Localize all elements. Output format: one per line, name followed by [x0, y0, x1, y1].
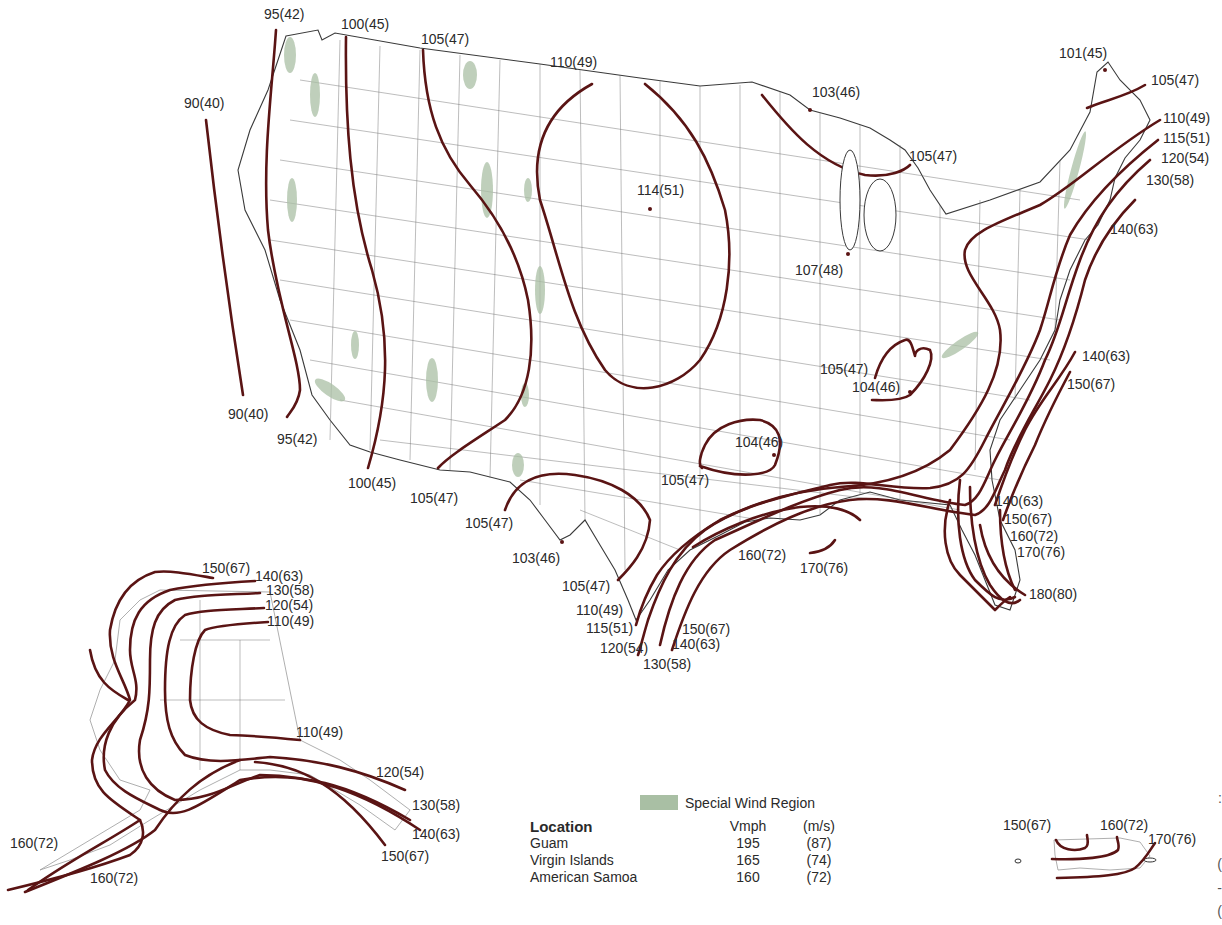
header-location: Location — [530, 818, 593, 835]
location-name: American Samoa — [530, 869, 637, 885]
contour-label: 107(48) — [795, 263, 843, 277]
contour-label: 110(49) — [296, 725, 343, 739]
contour-label: 104(46) — [852, 380, 900, 394]
contour-label: 160(72) — [738, 548, 786, 562]
contour-label: 170(76) — [800, 561, 848, 575]
contour-label: 150(67) — [381, 849, 429, 863]
contour-label: 140(63) — [255, 569, 303, 583]
contour-label: 170(76) — [1017, 545, 1065, 559]
contour-label: 95(42) — [264, 7, 304, 21]
ms-value: (72) — [798, 869, 840, 885]
location-name: Virgin Islands — [530, 852, 614, 868]
contour-label: 150(67) — [202, 561, 250, 575]
contour-label: 101(45) — [1059, 46, 1107, 60]
contour-label: 105(47) — [909, 149, 957, 163]
location-marker — [846, 252, 850, 256]
contour-label: 90(40) — [228, 407, 268, 421]
contour-label: 140(63) — [1110, 222, 1158, 236]
contour-label: 150(67) — [1003, 818, 1051, 832]
contour-label: 120(54) — [376, 765, 424, 779]
contour-label: 105(47) — [562, 579, 610, 593]
contour-label: 140(63) — [995, 494, 1043, 508]
contour-label: 114(51) — [637, 183, 684, 197]
contour-label: 120(54) — [600, 641, 648, 655]
contour-label: 105(47) — [410, 491, 458, 505]
location-marker — [1103, 68, 1107, 72]
contour-label: 95(42) — [277, 432, 317, 446]
contour-label: 130(58) — [643, 657, 691, 671]
contour-label: 110(49) — [550, 55, 597, 69]
contour-label: 120(54) — [1161, 151, 1209, 165]
wind-speed-map — [0, 0, 1222, 925]
edge-fragment: ( — [1217, 903, 1222, 919]
contour-label: 105(47) — [421, 32, 469, 46]
vmph-value: 165 — [723, 852, 773, 868]
table-row: Virgin Islands 165 (74) — [530, 852, 860, 869]
header-ms: (m/s) — [798, 818, 840, 834]
special-wind-region-label: Special Wind Region — [685, 795, 815, 811]
contour-label: 115(51) — [586, 621, 633, 635]
contour-label: 160(72) — [10, 836, 58, 850]
contour-label: 150(67) — [1004, 512, 1052, 526]
contour-label: 160(72) — [90, 871, 138, 885]
edge-fragment: - — [1217, 880, 1222, 896]
contour-label: 104(46) — [735, 435, 783, 449]
location-wind-table: Location Vmph (m/s) Guam 195 (87) Virgin… — [530, 818, 860, 886]
contour-label: 120(54) — [265, 598, 313, 612]
contour-label: 105(47) — [1151, 73, 1199, 87]
ms-value: (74) — [798, 852, 840, 868]
contour-label: 150(67) — [1067, 377, 1115, 391]
contour-label: 100(45) — [341, 17, 389, 31]
contour-label: 140(63) — [672, 637, 720, 651]
contour-label: 105(47) — [820, 362, 868, 376]
table-row: Guam 195 (87) — [530, 835, 860, 852]
location-marker — [648, 207, 652, 211]
location-marker — [808, 108, 812, 112]
contour-label: 105(47) — [661, 473, 709, 487]
contour-label: 103(46) — [512, 551, 560, 565]
location-marker — [908, 390, 912, 394]
contour-label: 115(51) — [1163, 131, 1210, 145]
contour-label: 130(58) — [266, 583, 314, 597]
contour-label: 90(40) — [184, 96, 224, 110]
vmph-value: 195 — [723, 835, 773, 851]
header-vmph: Vmph — [723, 818, 773, 834]
edge-fragment: : — [1218, 790, 1222, 806]
contour-label: 160(72) — [1100, 818, 1148, 832]
location-marker — [772, 453, 776, 457]
contour-label: 130(58) — [412, 798, 460, 812]
contour-label: 180(80) — [1029, 587, 1077, 601]
contour-label: 100(45) — [348, 476, 396, 490]
contour-label: 130(58) — [1146, 173, 1194, 187]
contour-label: 150(67) — [682, 622, 730, 636]
table-row: American Samoa 160 (72) — [530, 869, 860, 886]
location-name: Guam — [530, 835, 568, 851]
vmph-value: 160 — [723, 869, 773, 885]
puerto-rico — [1015, 835, 1156, 878]
contour-label: 105(47) — [465, 516, 513, 530]
contour-label: 160(72) — [1010, 529, 1058, 543]
contour-label: 110(49) — [576, 603, 623, 617]
contour-label: 140(63) — [412, 827, 460, 841]
ms-value: (87) — [798, 835, 840, 851]
contour-label: 110(49) — [1163, 111, 1210, 125]
special-wind-region-swatch — [640, 795, 678, 810]
contour-label: 140(63) — [1082, 349, 1130, 363]
contour-label: 103(46) — [812, 85, 860, 99]
location-marker — [560, 540, 564, 544]
contour-label: 110(49) — [267, 614, 314, 628]
contour-label: 170(76) — [1148, 832, 1196, 846]
edge-fragment: ( — [1217, 856, 1222, 872]
table-header-row: Location Vmph (m/s) — [530, 818, 860, 835]
alaska-outline — [40, 590, 410, 870]
